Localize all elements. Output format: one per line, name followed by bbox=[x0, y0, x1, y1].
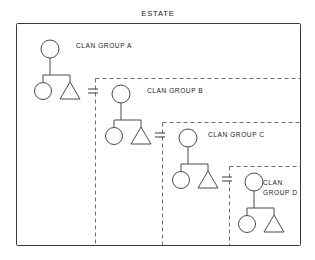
marriage-symbol-C-D bbox=[222, 177, 232, 181]
kinship-diagram: ESTATECLAN GROUP ACLAN GROUP BCLAN GROUP… bbox=[0, 0, 315, 260]
diagram-canvas: ESTATECLAN GROUP ACLAN GROUP BCLAN GROUP… bbox=[0, 0, 315, 260]
female-symbol-mother-C bbox=[179, 129, 197, 147]
clan-boundary-B bbox=[96, 79, 301, 246]
marriage-symbol-A-B bbox=[88, 89, 98, 93]
male-symbol-son-C bbox=[198, 171, 218, 188]
female-symbol-mother-A bbox=[41, 40, 59, 58]
clan-label-A: CLAN GROUP A bbox=[76, 42, 132, 49]
female-symbol-mother-B bbox=[112, 85, 130, 103]
clan-label-D: CLANGROUP D bbox=[263, 179, 298, 196]
female-symbol-mother-D bbox=[245, 173, 263, 191]
female-symbol-daughter-B bbox=[106, 128, 123, 145]
male-symbol-son-B bbox=[131, 127, 151, 144]
estate-title: ESTATE bbox=[141, 9, 174, 18]
male-symbol-son-D bbox=[264, 215, 284, 232]
marriage-symbol-B-C bbox=[155, 133, 165, 137]
female-symbol-daughter-D bbox=[239, 216, 256, 233]
female-symbol-daughter-C bbox=[173, 172, 190, 189]
female-symbol-daughter-A bbox=[35, 83, 52, 100]
clan-group-D: CLANGROUP D bbox=[239, 173, 298, 233]
male-symbol-son-A bbox=[60, 82, 80, 99]
clan-label-B: CLAN GROUP B bbox=[147, 87, 203, 94]
clan-label-C: CLAN GROUP C bbox=[208, 131, 265, 138]
